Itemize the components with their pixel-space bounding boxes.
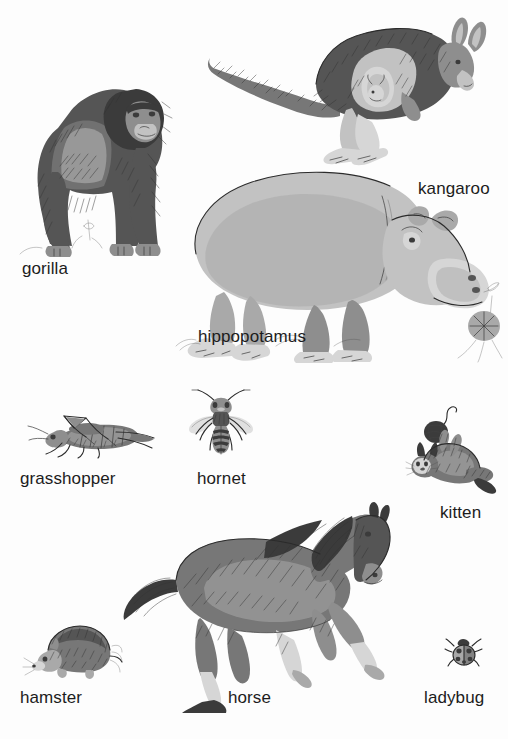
kitten-label: kitten [440, 504, 481, 521]
grasshopper-illustration [26, 410, 156, 460]
hippopotamus-label: hippopotamus [198, 328, 306, 345]
gorilla-illustration [12, 68, 180, 258]
hornet-label: hornet [197, 470, 246, 487]
gorilla-label: gorilla [22, 260, 68, 277]
ladybug-illustration [446, 636, 482, 670]
grasshopper-label: grasshopper [20, 470, 116, 487]
kitten-illustration [406, 404, 498, 496]
horse-illustration [116, 502, 398, 714]
hamster-illustration [32, 618, 122, 680]
ladybug-label: ladybug [424, 689, 484, 706]
animal-vocabulary-plate: gorilla [0, 0, 508, 739]
kangaroo-illustration [206, 14, 498, 166]
hamster-label: hamster [20, 689, 82, 706]
hornet-illustration [186, 388, 256, 458]
horse-label: horse [228, 689, 271, 706]
